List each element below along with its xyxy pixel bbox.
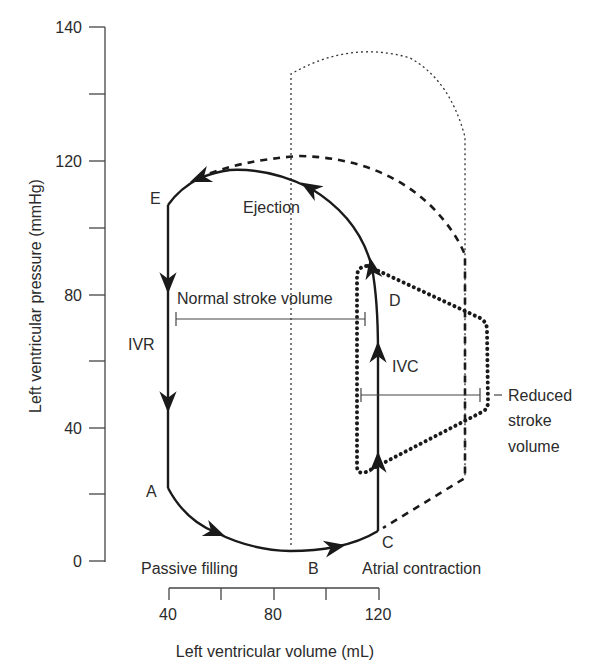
point-a-label: A — [146, 483, 157, 500]
point-d-label: D — [389, 292, 401, 309]
passive-filling-label: Passive filling — [141, 560, 238, 577]
point-b-label: B — [308, 560, 319, 577]
normal-stroke-volume-bar — [176, 312, 365, 326]
reduced-stroke-volume-label-2: stroke — [508, 412, 552, 429]
x-tick-80: 80 — [264, 606, 282, 623]
y-axis-title: Left ventricular pressure (mmHg) — [27, 179, 44, 413]
ivc-label: IVC — [392, 358, 419, 375]
ejection-label: Ejection — [243, 199, 300, 216]
y-tick-0: 0 — [73, 553, 82, 570]
afterload-loop-dashed — [198, 156, 465, 528]
y-tick-80: 80 — [64, 287, 82, 304]
pv-loop-diagram: 140 120 80 40 0 Left ventricular pressur… — [0, 0, 595, 671]
x-axis: 40 80 120 Left ventricular volume (mL) — [159, 588, 391, 660]
normal-stroke-volume-label: Normal stroke volume — [177, 290, 333, 307]
x-tick-40: 40 — [159, 606, 177, 623]
y-tick-140: 140 — [55, 19, 82, 36]
y-tick-40: 40 — [64, 420, 82, 437]
reduced-stroke-volume-label-3: volume — [508, 438, 560, 455]
y-tick-120: 120 — [55, 153, 82, 170]
point-c-label: C — [382, 534, 394, 551]
normal-loop — [168, 170, 378, 551]
reduced-stroke-volume-bar — [361, 388, 502, 402]
reduced-stroke-volume-label-1: Reduced — [508, 387, 572, 404]
atrial-contraction-label: Atrial contraction — [362, 560, 481, 577]
x-tick-120: 120 — [365, 606, 392, 623]
x-axis-title: Left ventricular volume (mL) — [176, 643, 374, 660]
ivr-label: IVR — [128, 336, 155, 353]
point-e-label: E — [150, 190, 161, 207]
y-axis: 140 120 80 40 0 Left ventricular pressur… — [27, 19, 105, 570]
